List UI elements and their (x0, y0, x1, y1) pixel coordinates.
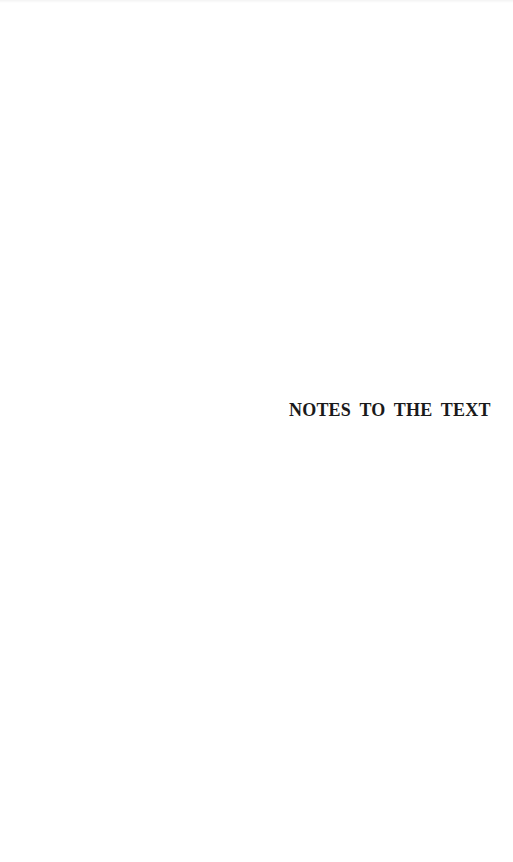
section-title: NOTES TO THE TEXT (289, 400, 469, 420)
page-edge (0, 0, 513, 3)
document-page: NOTES TO THE TEXT (0, 0, 513, 862)
